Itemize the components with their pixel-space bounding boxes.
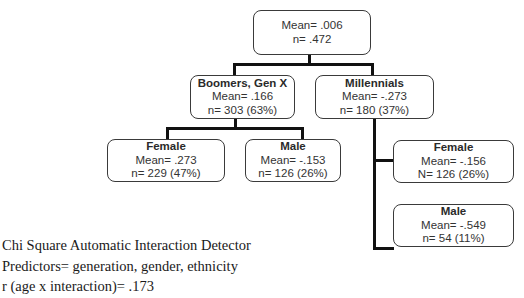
boomers-to-male (301, 127, 304, 139)
millennials-female-title: Female (394, 141, 513, 155)
boomers-genx-node: Boomers, Gen X Mean= .166 n= 303 (63%) (190, 75, 295, 119)
boomers-female-mean: Mean= .273 (108, 154, 224, 168)
millennials-stem (373, 118, 376, 250)
root-to-boomers (233, 63, 236, 75)
boomers-genx-title: Boomers, Gen X (191, 77, 294, 91)
millennials-female-n: N= 126 (26%) (394, 168, 513, 182)
correlation-note: r (age x interaction)= .173 (2, 276, 251, 297)
millennials-male-n: n= 54 (11%) (394, 232, 513, 246)
boomers-male-node: Male Mean= -.153 n= 126 (26%) (245, 139, 341, 182)
millennials-n: n= 180 (37%) (316, 104, 433, 118)
boomers-branch-bar (166, 127, 304, 130)
root-branch-bar (233, 63, 374, 66)
millennials-to-female (373, 159, 394, 162)
boomers-female-title: Female (108, 140, 224, 154)
root-mean: Mean= .006 (254, 19, 370, 33)
millennials-male-node: Male Mean= -.549 n= 54 (11%) (393, 204, 514, 247)
millennials-node: Millennials Mean= -.273 n= 180 (37%) (315, 75, 434, 119)
millennials-mean: Mean= -.273 (316, 90, 433, 104)
millennials-male-mean: Mean= -.549 (394, 219, 513, 233)
predictors-note: Predictors= generation, gender, ethnicit… (2, 256, 251, 277)
boomers-genx-n: n= 303 (63%) (191, 104, 294, 118)
millennials-to-male (373, 247, 394, 250)
millennials-female-node: Female Mean= -.156 N= 126 (26%) (393, 140, 514, 183)
root-node: Mean= .006 n= .472 (253, 10, 371, 55)
boomers-female-node: Female Mean= .273 n= 229 (47%) (107, 139, 225, 182)
boomers-female-n: n= 229 (47%) (108, 167, 224, 181)
boomers-male-mean: Mean= -.153 (246, 154, 340, 168)
boomers-to-female (166, 127, 169, 139)
millennials-male-title: Male (394, 205, 513, 219)
boomers-genx-mean: Mean= .166 (191, 90, 294, 104)
millennials-female-mean: Mean= -.156 (394, 155, 513, 169)
diagram-notes: Chi Square Automatic Interaction Detecto… (2, 235, 251, 297)
root-n: n= .472 (254, 33, 370, 47)
millennials-title: Millennials (316, 77, 433, 91)
method-note: Chi Square Automatic Interaction Detecto… (2, 235, 251, 256)
boomers-male-n: n= 126 (26%) (246, 167, 340, 181)
root-to-millennials (371, 63, 374, 75)
boomers-male-title: Male (246, 140, 340, 154)
